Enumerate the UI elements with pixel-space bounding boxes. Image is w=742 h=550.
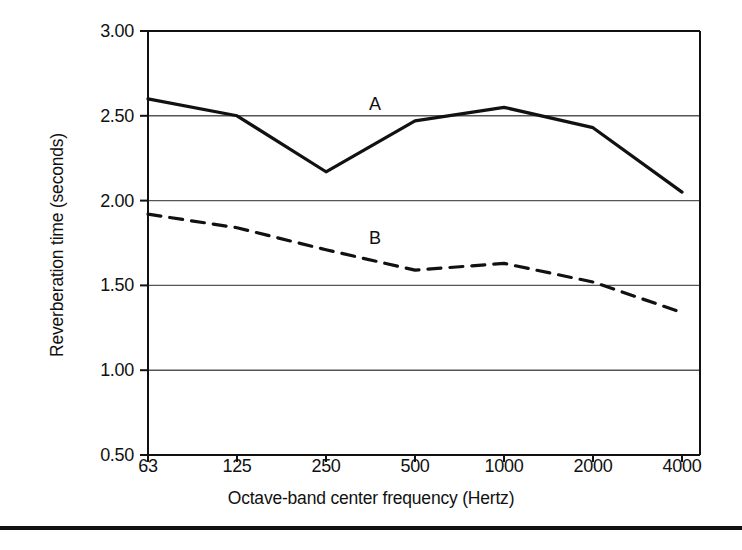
series-line-B [148,214,682,312]
series-label-A: A [366,95,384,113]
bottom-rule-divider [0,526,742,530]
y-tick-label: 1.50 [68,275,134,296]
x-tick-label: 1000 [464,456,544,477]
x-axis-title: Octave-band center frequency (Hertz) [0,488,742,509]
series-label-B: B [366,229,384,247]
reverberation-time-chart: Reverberation time (seconds) 0.501.001.5… [0,0,742,550]
y-tick-label: 2.00 [68,190,134,211]
y-tick-label: 2.50 [68,105,134,126]
series-line-A [148,99,682,192]
x-tick-label: 63 [108,456,188,477]
x-tick-label: 500 [375,456,455,477]
x-axis-tick-labels: 63125250500100020004000 [0,456,742,486]
y-tick-label: 1.00 [68,360,134,381]
x-tick-label: 4000 [642,456,722,477]
x-tick-label: 250 [286,456,366,477]
x-tick-label: 125 [197,456,277,477]
y-tick-label: 3.00 [68,21,134,42]
x-tick-label: 2000 [553,456,633,477]
